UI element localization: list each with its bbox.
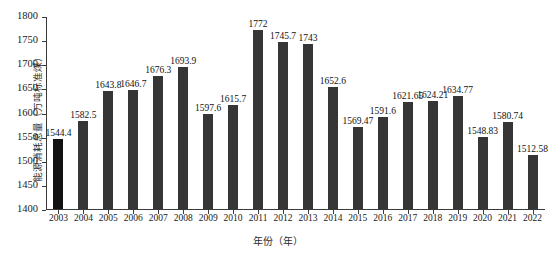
x-tick-label: 2015: [345, 213, 370, 223]
x-tick-label: 2019: [445, 213, 470, 223]
y-tick: 1650: [42, 89, 46, 90]
energy-consumption-bar-chart: 能源消耗总量（万吨标准煤） 14001450150015501600165017…: [0, 0, 556, 258]
y-tick-label: 1500: [17, 155, 38, 166]
x-tick-label: 2007: [146, 213, 171, 223]
bar-value-label: 1693.9: [170, 56, 196, 66]
x-tick-label: 2022: [520, 213, 545, 223]
x-tick-label: 2020: [470, 213, 495, 223]
y-tick-label: 1550: [17, 131, 38, 142]
bar-value-label: 1652.6: [320, 76, 346, 86]
bar: 1634.77: [453, 96, 463, 209]
bar-value-label: 1548.83: [467, 126, 498, 136]
y-tick-label: 1400: [17, 203, 38, 214]
x-tick-label: 2016: [370, 213, 395, 223]
x-axis-line: [46, 209, 545, 210]
bar-value-label: 1646.7: [120, 79, 146, 89]
x-tick-label: 2008: [171, 213, 196, 223]
y-tick: 1450: [42, 186, 46, 187]
bar: 1548.83: [478, 137, 488, 209]
x-tick-label: 2006: [121, 213, 146, 223]
bar: 1544.4: [53, 139, 63, 209]
bar: 1569.47: [353, 127, 363, 209]
bar-value-label: 1580.74: [492, 111, 523, 121]
x-tick-label: 2011: [246, 213, 271, 223]
bar: 1676.3: [153, 76, 163, 209]
bar: 1745.7: [278, 42, 288, 209]
bar: 1582.5: [78, 121, 88, 209]
y-tick-label: 1800: [17, 10, 38, 21]
y-tick: 1400: [42, 210, 46, 211]
y-tick-label: 1750: [17, 34, 38, 45]
bar: 1591.6: [378, 117, 388, 209]
bar: 1643.8: [103, 91, 113, 209]
y-tick-label: 1700: [17, 58, 38, 69]
x-tick-label: 2010: [221, 213, 246, 223]
bar-value-label: 1569.47: [342, 116, 373, 126]
y-tick-label: 1450: [17, 179, 38, 190]
x-tick-label: 2021: [495, 213, 520, 223]
x-tick-label: 2009: [196, 213, 221, 223]
x-tick-label: 2005: [96, 213, 121, 223]
x-tick-label: 2018: [420, 213, 445, 223]
x-tick-label: 2004: [71, 213, 96, 223]
bar-value-label: 1597.6: [195, 103, 221, 113]
x-tick-label: 2013: [296, 213, 321, 223]
bar-value-label: 1772: [249, 19, 268, 29]
plot-area: 140014501500155016001650170017501800 154…: [46, 17, 545, 210]
bar: 1597.6: [203, 114, 213, 209]
bar: 1772: [253, 30, 263, 209]
bar-value-label: 1676.3: [145, 65, 171, 75]
y-tick: 1500: [42, 162, 46, 163]
x-tick-label: 2017: [395, 213, 420, 223]
y-axis-line: [46, 17, 47, 210]
bar: 1621.65: [403, 102, 413, 209]
bar-value-label: 1643.8: [95, 80, 121, 90]
bar: 1580.74: [503, 122, 513, 209]
bar: 1624.21: [428, 101, 438, 209]
y-tick-label: 1600: [17, 107, 38, 118]
x-tick-label: 2012: [271, 213, 296, 223]
bar-value-label: 1634.77: [442, 85, 473, 95]
x-tick-label: 2014: [320, 213, 345, 223]
bar-value-label: 1745.7: [270, 31, 296, 41]
bar-value-label: 1615.7: [220, 94, 246, 104]
bar-value-label: 1591.6: [370, 106, 396, 116]
x-tick-label: 2003: [46, 213, 71, 223]
bar: 1652.6: [328, 87, 338, 209]
bar: 1693.9: [178, 67, 188, 209]
y-tick-label: 1650: [17, 82, 38, 93]
y-tick: 1700: [42, 65, 46, 66]
bar-value-label: 1512.58: [517, 144, 548, 154]
bar: 1646.7: [128, 90, 138, 209]
bar-value-label: 1582.5: [70, 110, 96, 120]
y-tick: 1800: [42, 17, 46, 18]
bar-value-label: 1743: [298, 33, 317, 43]
bar: 1615.7: [228, 105, 238, 209]
y-tick: 1600: [42, 114, 46, 115]
y-tick: 1750: [42, 41, 46, 42]
bar-value-label: 1544.4: [45, 128, 71, 138]
bar: 1512.58: [528, 155, 538, 209]
x-axis-title: 年份（年）: [0, 233, 556, 248]
bar: 1743: [303, 44, 313, 209]
